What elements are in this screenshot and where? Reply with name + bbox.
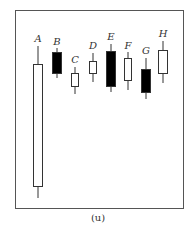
candle-c: C	[71, 54, 79, 94]
candle-f: F	[124, 40, 133, 90]
candle-d: D	[88, 40, 97, 82]
candle-body	[72, 74, 79, 87]
candle-e: E	[106, 31, 115, 92]
candle-label: H	[158, 28, 168, 39]
candle-body	[53, 53, 62, 74]
candle-a: A	[33, 33, 42, 198]
candle-body	[90, 62, 97, 74]
candle-label: B	[52, 36, 60, 47]
figure-caption: (u)	[0, 212, 196, 223]
candle-body	[142, 70, 151, 93]
candle-g: G	[142, 45, 151, 99]
candle-body	[34, 65, 43, 187]
candle-h: H	[158, 28, 168, 83]
candle-label: G	[142, 45, 150, 56]
candle-body	[107, 52, 116, 87]
candle-body	[125, 59, 132, 81]
candle-label: E	[106, 31, 115, 42]
candle-label: C	[71, 54, 79, 65]
candle-body	[159, 51, 168, 74]
candle-label: D	[88, 40, 97, 51]
candle-b: B	[52, 36, 61, 78]
candle-label: F	[124, 40, 133, 51]
candle-label: A	[33, 33, 41, 44]
candlestick-chart: ABCDEFGH	[0, 0, 196, 230]
